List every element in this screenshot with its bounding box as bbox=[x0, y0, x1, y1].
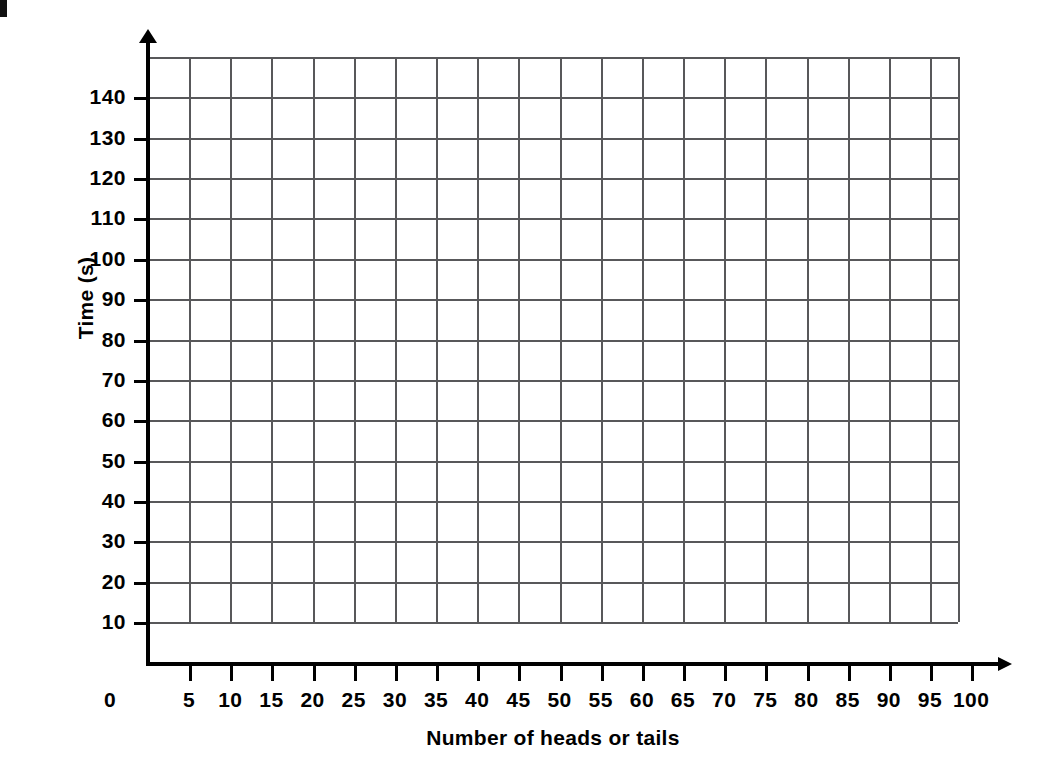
gridline-vertical bbox=[601, 57, 603, 622]
y-axis-tick-label: 140 bbox=[26, 86, 126, 107]
gridline-vertical bbox=[313, 57, 315, 622]
gridline-vertical bbox=[230, 57, 232, 622]
x-axis-tick bbox=[560, 665, 563, 681]
y-axis-tick bbox=[134, 259, 149, 262]
x-axis-tick bbox=[724, 665, 727, 681]
x-axis-tick-label: 100 bbox=[941, 689, 1001, 710]
gridline-vertical bbox=[271, 57, 273, 622]
y-axis-tick bbox=[134, 218, 149, 221]
gridline-vertical bbox=[765, 57, 767, 622]
y-axis-tick-label: 110 bbox=[26, 207, 126, 228]
x-axis-tick bbox=[354, 665, 357, 681]
gridline-horizontal bbox=[148, 501, 958, 503]
x-axis-tick bbox=[930, 665, 933, 681]
y-axis-tick-label: 70 bbox=[26, 369, 126, 390]
y-axis-tick bbox=[134, 299, 149, 302]
x-axis-tick bbox=[313, 665, 316, 681]
plot-grid-area bbox=[148, 57, 958, 622]
x-axis-tick bbox=[518, 665, 521, 681]
y-axis-tick bbox=[134, 138, 149, 141]
y-axis-tick-label: 120 bbox=[26, 167, 126, 188]
y-axis-tick-label: 20 bbox=[26, 571, 126, 592]
x-axis-tick bbox=[807, 665, 810, 681]
y-axis-tick-label: 60 bbox=[26, 409, 126, 430]
gridline-horizontal bbox=[148, 420, 958, 422]
y-axis-tick bbox=[134, 420, 149, 423]
x-axis-tick bbox=[765, 665, 768, 681]
x-axis-tick bbox=[642, 665, 645, 681]
y-axis-tick bbox=[134, 97, 149, 100]
y-axis-tick-label: 30 bbox=[26, 530, 126, 551]
gridline-horizontal bbox=[148, 97, 958, 99]
gridline-horizontal bbox=[148, 461, 958, 463]
gridline-horizontal bbox=[148, 299, 958, 301]
graph-page: 102030405060708090100110120130140 051015… bbox=[0, 0, 1039, 784]
gridline-vertical bbox=[477, 57, 479, 622]
y-axis-tick-label: 130 bbox=[26, 127, 126, 148]
gridline-vertical bbox=[518, 57, 520, 622]
y-axis-tick bbox=[134, 622, 149, 625]
y-axis-tick bbox=[134, 380, 149, 383]
gridline-vertical bbox=[889, 57, 891, 622]
x-axis-tick bbox=[971, 665, 974, 681]
x-axis-tick bbox=[230, 665, 233, 681]
y-axis-tick bbox=[134, 582, 149, 585]
gridline-vertical bbox=[354, 57, 356, 622]
y-axis-line bbox=[146, 40, 150, 666]
x-axis-arrow-icon bbox=[998, 657, 1012, 671]
y-axis-tick bbox=[134, 178, 149, 181]
gridline-horizontal bbox=[148, 582, 958, 584]
gridline-vertical bbox=[189, 57, 191, 622]
y-axis-arrow-icon bbox=[139, 29, 157, 43]
y-axis-title: Time (s) bbox=[74, 228, 98, 368]
gridline-vertical bbox=[642, 57, 644, 622]
gridline-vertical bbox=[848, 57, 850, 622]
gridline-horizontal bbox=[148, 218, 958, 220]
scan-artifact-mark bbox=[0, 0, 7, 17]
x-axis-tick bbox=[436, 665, 439, 681]
x-axis-tick bbox=[889, 665, 892, 681]
gridline-horizontal bbox=[148, 259, 958, 261]
y-axis-tick bbox=[134, 541, 149, 544]
x-axis-tick bbox=[271, 665, 274, 681]
gridline-horizontal bbox=[148, 178, 958, 180]
gridline-horizontal bbox=[148, 340, 958, 342]
gridline-horizontal bbox=[148, 380, 958, 382]
y-axis-tick-label: 10 bbox=[26, 611, 126, 632]
gridline-vertical bbox=[930, 57, 932, 622]
x-axis-origin-label: 0 bbox=[80, 689, 140, 710]
x-axis-tick bbox=[601, 665, 604, 681]
gridline-vertical bbox=[683, 57, 685, 622]
y-axis-tick-label: 50 bbox=[26, 450, 126, 471]
y-axis-tick bbox=[134, 461, 149, 464]
gridline-horizontal bbox=[148, 57, 958, 59]
gridline-vertical bbox=[560, 57, 562, 622]
x-axis-title: Number of heads or tails bbox=[148, 726, 958, 750]
gridline-vertical bbox=[395, 57, 397, 622]
x-axis-tick bbox=[683, 665, 686, 681]
x-axis-tick bbox=[189, 665, 192, 681]
gridline-horizontal bbox=[148, 541, 958, 543]
gridline-vertical bbox=[724, 57, 726, 622]
y-axis-tick bbox=[134, 340, 149, 343]
gridline-horizontal bbox=[148, 138, 958, 140]
gridline-horizontal bbox=[148, 622, 958, 624]
x-axis-tick bbox=[848, 665, 851, 681]
y-axis-tick-label: 40 bbox=[26, 490, 126, 511]
x-axis-tick bbox=[477, 665, 480, 681]
gridline-vertical bbox=[807, 57, 809, 622]
gridline-vertical bbox=[958, 57, 960, 622]
x-axis-tick bbox=[395, 665, 398, 681]
gridline-vertical bbox=[436, 57, 438, 622]
y-axis-tick bbox=[134, 501, 149, 504]
